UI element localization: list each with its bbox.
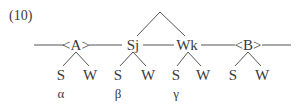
leaf-w: W xyxy=(83,68,97,83)
leaf-s: S xyxy=(229,68,237,83)
leaf-w: W xyxy=(141,68,155,83)
leaf-s: S xyxy=(172,68,180,83)
greek-alpha: α xyxy=(58,86,65,101)
branch-b-w xyxy=(248,52,261,66)
leaf-w: W xyxy=(255,68,269,83)
node-wk: Wk xyxy=(176,38,198,53)
node-b: <B> xyxy=(235,38,262,53)
branch-sj-s xyxy=(120,52,133,66)
tree-edges xyxy=(0,0,298,106)
apex-right-edge xyxy=(160,12,185,36)
leaf-s: S xyxy=(114,68,122,83)
leaf-w: W xyxy=(196,68,210,83)
greek-gamma: γ xyxy=(173,86,179,101)
leaf-s: S xyxy=(57,68,65,83)
branch-wk-w xyxy=(188,52,201,66)
node-a: <A> xyxy=(62,38,90,53)
greek-beta: β xyxy=(115,86,122,101)
branch-b-s xyxy=(235,52,248,66)
metrical-tree-diagram: (10) <A> Sj Wk <B> S W S W S W S W α β γ xyxy=(0,0,298,106)
apex-left-edge xyxy=(137,12,160,36)
branch-wk-s xyxy=(177,52,188,66)
node-sj: Sj xyxy=(127,38,140,53)
branch-sj-w xyxy=(133,52,146,66)
example-number: (10) xyxy=(9,8,32,24)
branch-a-w xyxy=(76,52,89,66)
branch-a-s xyxy=(63,52,76,66)
